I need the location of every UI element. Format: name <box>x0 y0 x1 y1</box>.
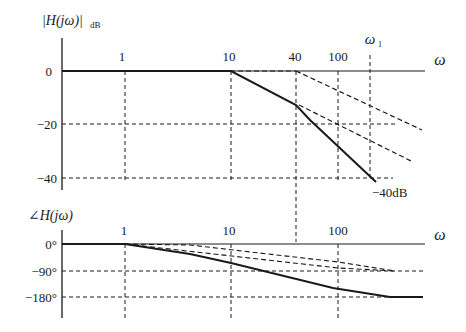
phase-xtick-1: 1 <box>121 223 128 238</box>
magnitude-ylabel: |H(jω)| <box>42 13 83 29</box>
ytick-minus90deg: −90° <box>31 264 57 279</box>
bode-diagram: |H(jω)| dB 0 −20 −40 1 10 40 100 ω 1 ω −… <box>0 0 466 332</box>
magnitude-xlabel: ω <box>434 51 445 68</box>
annotation-minus40db: −40dB <box>372 185 408 200</box>
xtick-10: 10 <box>223 49 236 64</box>
xtick-40: 40 <box>289 49 302 64</box>
ytick-0deg: 0° <box>45 237 57 252</box>
xtick-100: 100 <box>328 49 348 64</box>
component-pole-10 <box>299 105 411 161</box>
ytick-0: 0 <box>46 64 53 79</box>
xtick-1: 1 <box>119 49 126 64</box>
phase-total-curve <box>62 244 423 297</box>
phase-plot: ∠H(jω) 0° −90° −180° 1 10 100 ω <box>25 208 446 318</box>
phase-xtick-100: 100 <box>328 223 348 238</box>
phase-xtick-10: 10 <box>223 223 236 238</box>
magnitude-ylabel-sub: dB <box>90 20 101 30</box>
magnitude-total-curve <box>62 71 376 182</box>
omega1-label: ω <box>365 31 376 47</box>
ytick-minus20: −20 <box>37 117 57 132</box>
omega1-sub: 1 <box>378 40 382 49</box>
phase-component-2 <box>125 244 395 271</box>
magnitude-plot: |H(jω)| dB 0 −20 −40 1 10 40 100 ω 1 ω −… <box>37 13 446 242</box>
ytick-minus40: −40 <box>37 171 57 186</box>
component-pole-40 <box>296 71 422 130</box>
phase-xlabel: ω <box>434 226 445 243</box>
phase-ylabel: ∠H(jω) <box>28 208 73 224</box>
ytick-minus180deg: −180° <box>25 290 57 305</box>
phase-component-1 <box>62 244 395 271</box>
